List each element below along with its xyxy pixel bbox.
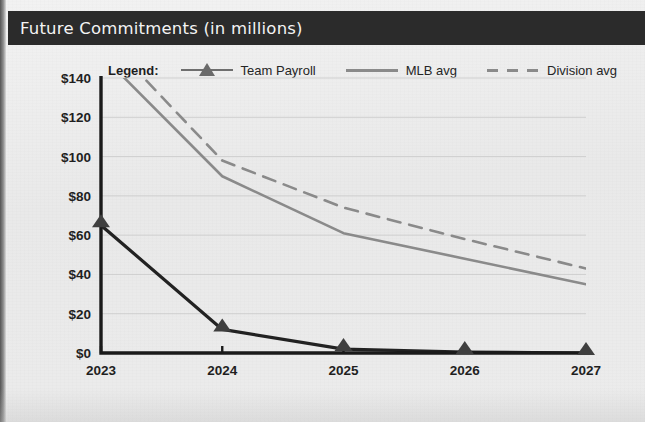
y-axis-tick-labels: $0$20$40$60$80$100$120$140 — [61, 71, 91, 361]
svg-text:2023: 2023 — [86, 363, 117, 378]
svg-text:2024: 2024 — [207, 363, 238, 378]
chart-canvas: $0$20$40$60$80$100$120$140 2023202420252… — [0, 0, 645, 422]
svg-text:$60: $60 — [68, 228, 91, 243]
svg-text:2027: 2027 — [571, 363, 601, 378]
svg-text:$140: $140 — [61, 71, 91, 86]
svg-text:2025: 2025 — [328, 363, 359, 378]
plot-area: $0$20$40$60$80$100$120$140 2023202420252… — [0, 0, 645, 422]
svg-text:$20: $20 — [68, 307, 91, 322]
svg-text:$100: $100 — [61, 150, 91, 165]
svg-text:$120: $120 — [61, 110, 91, 125]
svg-text:$40: $40 — [68, 267, 91, 282]
svg-text:2026: 2026 — [450, 363, 481, 378]
chart-screenshot: Future Commitments (in millions) Legend:… — [0, 0, 645, 422]
x-axis-tick-labels: 20232024202520262027 — [86, 363, 601, 378]
svg-text:$0: $0 — [76, 346, 91, 361]
svg-text:$80: $80 — [68, 189, 91, 204]
gridlines — [101, 78, 586, 314]
data-series-layer — [101, 33, 586, 353]
